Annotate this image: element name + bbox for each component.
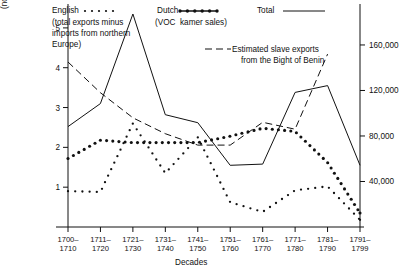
- series-dots-dutch: [333, 172, 336, 175]
- series-dots-dutch: [204, 140, 207, 143]
- y-tick-label-right: 80,000: [369, 132, 394, 141]
- legend-swatch-dutch-dot: [201, 9, 204, 12]
- series-dots-dutch: [353, 203, 356, 206]
- series-dots-english: [235, 203, 237, 205]
- series-dots-dutch: [117, 140, 120, 143]
- series-dots-dutch: [313, 148, 316, 151]
- y-tick-label-left: 2: [55, 143, 60, 152]
- y-tick-label-right: 40,000: [369, 177, 394, 186]
- series-dots-english: [256, 209, 258, 211]
- series-dots-english: [113, 162, 115, 164]
- legend-swatch-english-dot: [112, 10, 114, 12]
- series-dots-english: [147, 146, 149, 148]
- series-dots-english: [197, 136, 199, 138]
- series-dots-dutch: [317, 153, 320, 156]
- series-dots-english: [333, 192, 335, 194]
- series-dots-english: [222, 188, 224, 190]
- series-dots-dutch: [155, 141, 158, 144]
- series-dots-dutch: [136, 141, 139, 144]
- series-dots-dutch: [252, 129, 255, 132]
- series-dots-english: [226, 194, 228, 196]
- series-dots-english: [213, 168, 215, 170]
- series-dots-english: [203, 149, 205, 151]
- x-tick-label-top: 1731–: [155, 235, 177, 244]
- series-dots-english: [353, 213, 355, 215]
- series-dots-english: [177, 158, 179, 160]
- series-dots-english: [81, 190, 83, 192]
- series-dots-english: [206, 156, 208, 158]
- series-dots-dutch: [77, 151, 80, 154]
- series-dots-english: [159, 164, 161, 166]
- series-dots-english: [107, 175, 109, 177]
- series-dots-english: [216, 175, 218, 177]
- series-dots-dutch: [271, 128, 274, 131]
- series-dots-english: [359, 219, 361, 221]
- series-dots-english: [269, 206, 271, 208]
- x-tick-label-bottom: 1750: [189, 244, 206, 253]
- series-dots-english: [132, 123, 134, 125]
- legend-slaves-line-1: Estimated slave exports: [232, 45, 319, 55]
- series-dots-english: [155, 158, 157, 160]
- series-dots-english: [163, 170, 165, 172]
- series-dots-dutch: [148, 141, 151, 144]
- legend-swatch-dutch-dot: [186, 9, 189, 12]
- series-dots-dutch: [299, 135, 302, 138]
- series-dots-dutch: [66, 157, 69, 160]
- series-dots-dutch: [304, 140, 307, 143]
- series-dots-dutch: [198, 141, 201, 144]
- series-dots-dutch: [179, 141, 182, 144]
- series-dots-english: [104, 181, 106, 183]
- x-tick-label-bottom: 1720: [92, 244, 109, 253]
- x-tick-label-bottom: 1740: [157, 244, 174, 253]
- series-dots-dutch: [88, 145, 91, 148]
- series-dots-dutch: [340, 182, 343, 185]
- series-dots-english: [307, 188, 309, 190]
- series-dots-english: [328, 187, 330, 189]
- series-dots-dutch: [322, 157, 325, 160]
- series-dots-english: [96, 191, 98, 193]
- y-axis-title-right: (no. of slaves exported): [0, 0, 9, 9]
- x-tick-label-top: 1781–: [317, 235, 339, 244]
- series-dots-english: [249, 207, 251, 209]
- chart-figure: 1234540,00080,000120,000160,0001700–1710…: [0, 0, 408, 275]
- y-tick-label-right: 160,000: [369, 41, 399, 50]
- series-dots-english: [242, 205, 244, 207]
- series-dots-dutch: [142, 141, 145, 144]
- series-dots-english: [182, 152, 184, 154]
- series-dots-english: [275, 202, 277, 204]
- legend-total-label: Total: [257, 6, 274, 16]
- x-tick-label-bottom: 1780: [287, 244, 304, 253]
- series-dots-dutch: [124, 140, 127, 143]
- series-dots-english: [168, 168, 170, 170]
- y-tick-label-left: 3: [55, 104, 60, 113]
- series-dots-english: [101, 188, 103, 190]
- y-tick-label-right: 120,000: [369, 86, 399, 95]
- x-axis-title: Decades: [175, 258, 207, 268]
- series-dots-dutch: [346, 193, 349, 196]
- series-dots-dutch: [356, 208, 359, 211]
- series-dots-english: [219, 181, 221, 183]
- series-dots-english: [187, 147, 189, 149]
- legend-swatch-dutch-dot: [178, 9, 181, 12]
- series-dots-dutch: [93, 142, 96, 145]
- series-dots-english: [210, 162, 212, 164]
- x-tick-label-top: 1721–: [122, 235, 144, 244]
- series-dots-dutch: [72, 154, 75, 157]
- legend-dutch-label: Dutch: [157, 6, 178, 16]
- legend-swatch-dutch-dot: [215, 9, 218, 12]
- y-tick-label-left: 4: [55, 64, 60, 73]
- series-dots-dutch: [265, 127, 268, 130]
- series-dots-dutch: [167, 141, 170, 144]
- series-dots-dutch: [258, 127, 261, 130]
- series-dots-dutch: [161, 141, 164, 144]
- series-dots-english: [281, 198, 283, 200]
- series-dots-dutch: [326, 161, 329, 164]
- legend-swatch-english-dot: [84, 10, 86, 12]
- x-tick-label-top: 1771–: [285, 235, 307, 244]
- series-dots-dutch: [222, 136, 225, 139]
- series-dots-english: [229, 201, 231, 203]
- legend-slaves-line-2: from the Bight of Benin: [241, 56, 324, 66]
- x-tick-label-top: 1711–: [90, 235, 111, 244]
- legend-english-note-1: (total exports minus: [52, 18, 123, 28]
- series-dots-english: [263, 210, 265, 212]
